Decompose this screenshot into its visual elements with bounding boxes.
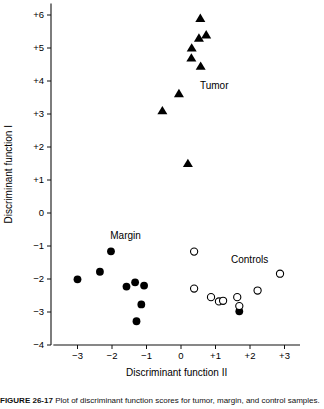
data-point-margin: [137, 301, 145, 309]
y-tick-label: −3: [33, 306, 44, 317]
x-tick-label: +2: [245, 350, 256, 361]
data-point-control: [207, 294, 214, 301]
data-point-margin: [107, 247, 115, 255]
y-tick-label: −2: [33, 273, 44, 284]
x-tick-label: +1: [210, 350, 221, 361]
data-point-margin: [131, 278, 139, 286]
figure-caption: FIGURE 26-17 Plot of discriminant functi…: [0, 396, 324, 406]
data-point-tumor: [183, 159, 193, 167]
data-point-tumor: [196, 61, 206, 69]
scatter-plot: −4−3−2−10+1+2+3+4+5+6−3−2−10+1+2+3 Tumor…: [0, 0, 324, 409]
y-axis-title: Discriminant function I: [3, 125, 14, 223]
x-tick-label: −3: [72, 350, 83, 361]
annotation-labels-layer: TumorMarginControls: [110, 80, 268, 264]
data-point-tumor: [195, 14, 205, 22]
data-point-control: [191, 248, 198, 255]
data-point-control: [191, 285, 198, 292]
data-point-tumor: [201, 30, 211, 38]
x-axis-title: Discriminant function II: [126, 367, 227, 378]
data-point-tumor: [174, 89, 184, 97]
data-point-control: [254, 287, 261, 294]
data-point-margin: [140, 282, 148, 290]
data-point-control: [234, 294, 241, 301]
y-tick-label: −1: [33, 240, 44, 251]
caption-figure-number: FIGURE 26-17: [0, 396, 53, 405]
group-label-controls: Controls: [231, 254, 268, 265]
figure-container: −4−3−2−10+1+2+3+4+5+6−3−2−10+1+2+3 Tumor…: [0, 0, 324, 409]
data-point-margin: [123, 283, 131, 291]
data-point-tumor: [157, 106, 167, 114]
y-tick-label: +5: [33, 42, 44, 53]
axes-layer: −4−3−2−10+1+2+3+4+5+6−3−2−10+1+2+3: [33, 3, 300, 361]
y-tick-label: −4: [33, 339, 44, 350]
group-label-tumor: Tumor: [200, 80, 229, 91]
data-point-margin: [74, 275, 82, 283]
x-tick-label: 0: [178, 350, 183, 361]
x-tick-label: −2: [107, 350, 118, 361]
data-point-margin: [133, 317, 141, 325]
y-tick-label: +6: [33, 9, 44, 20]
y-tick-label: +1: [33, 174, 44, 185]
x-tick-label: +3: [279, 350, 290, 361]
x-tick-label: −1: [141, 350, 152, 361]
data-point-control: [276, 270, 283, 277]
group-label-margin: Margin: [110, 230, 141, 241]
data-point-tumor: [187, 43, 197, 51]
data-point-control: [219, 297, 226, 304]
data-point-margin: [96, 268, 104, 276]
data-points-layer: [74, 14, 284, 326]
data-point-control: [236, 302, 243, 309]
data-point-tumor: [186, 53, 196, 61]
y-tick-label: +3: [33, 108, 44, 119]
y-tick-label: +4: [33, 75, 44, 86]
y-tick-label: +2: [33, 141, 44, 152]
y-tick-label: 0: [39, 207, 44, 218]
caption-text: Plot of discriminant function scores for…: [55, 396, 320, 405]
